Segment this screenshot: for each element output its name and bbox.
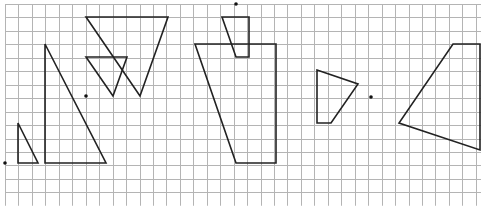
small-inverted-triangle (86, 57, 127, 96)
small-right-triangle (18, 123, 38, 163)
shapes-layer (18, 17, 480, 163)
rotation-center-top-dot (234, 2, 238, 6)
grid-diagram (0, 0, 481, 206)
right-quadrilateral-large (399, 44, 480, 150)
rotation-center-mid-left-dot (84, 94, 88, 98)
right-quadrilateral-small (317, 70, 358, 123)
small-quadrilateral (222, 17, 249, 57)
rotation-center-right-dot (369, 95, 373, 99)
large-right-triangle (45, 44, 106, 163)
rotation-center-left-dot (3, 161, 7, 165)
grid-svg (0, 0, 481, 206)
